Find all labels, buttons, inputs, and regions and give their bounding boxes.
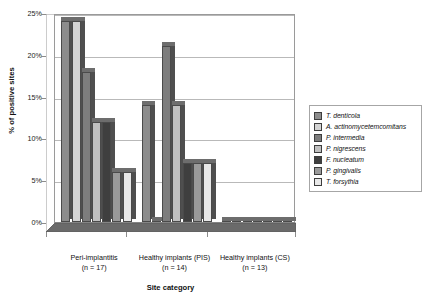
legend-item: F. nucleatum (314, 154, 418, 165)
bar-front (61, 21, 70, 222)
y-axis-tick-label: 15% (28, 94, 42, 102)
x-axis-tick (46, 232, 47, 237)
bar-front (92, 122, 101, 222)
legend-item: P. intermedia (314, 132, 418, 143)
bar-top (172, 101, 185, 105)
legend-label: P. nigrescens (326, 145, 366, 152)
bar-top (162, 42, 175, 46)
legend-label: T. denticola (326, 112, 360, 119)
bar-top (203, 159, 216, 163)
bar (142, 105, 151, 222)
legend-item: P. nigrescens (314, 143, 418, 154)
plot-floor (46, 214, 296, 232)
legend-label: F. nucleatum (326, 156, 364, 163)
y-axis-tick-label: 10% (28, 135, 42, 143)
bar-side (151, 102, 155, 219)
plot-face (54, 14, 295, 223)
bar-group (142, 13, 213, 222)
bar-top (123, 168, 136, 172)
legend-item: T. denticola (314, 110, 418, 121)
bar-chart: % of positive sites 0%5%10%15%20%25% Per… (0, 0, 434, 302)
legend-item: T. forsythia (314, 176, 418, 187)
x-axis-tick (126, 232, 127, 237)
bar-side (132, 169, 136, 219)
legend-swatch (314, 123, 322, 131)
x-axis-tick (207, 232, 208, 237)
bar-group (222, 13, 293, 222)
legend-swatch (314, 167, 322, 175)
y-axis-title: % of positive sites (7, 6, 16, 196)
bar (162, 46, 171, 222)
legend-swatch (314, 145, 322, 153)
bar-top (102, 118, 115, 122)
bar-top (72, 17, 85, 21)
bar (72, 21, 81, 222)
bar-group (61, 13, 132, 222)
x-axis-category-label: Healthy implants (CS)(n = 13) (195, 253, 315, 273)
y-axis-tick-label: 20% (28, 52, 42, 60)
legend-label: T. forsythia (326, 178, 358, 185)
legend-item: A. actinomycetemcomitans (314, 121, 418, 132)
legend-label: A. actinomycetemcomitans (326, 123, 406, 130)
bar-top (142, 101, 155, 105)
bar-front (102, 122, 111, 222)
bar-top (82, 68, 95, 72)
x-axis-category-line: (n = 13) (195, 263, 315, 273)
x-axis-title: Site category (46, 283, 295, 292)
bar (61, 21, 70, 222)
x-axis-category-line: Healthy implants (CS) (195, 253, 315, 263)
bar (102, 122, 111, 222)
bar-side (212, 160, 216, 219)
bar-front (82, 72, 91, 222)
plot-area (46, 14, 295, 231)
legend-swatch (314, 134, 322, 142)
legend-swatch (314, 156, 322, 164)
bar-front (72, 21, 81, 222)
bar (82, 72, 91, 222)
bar-front (172, 105, 181, 222)
legend-item: P. gingivalis (314, 165, 418, 176)
legend-label: P. intermedia (326, 134, 365, 141)
y-axis-tick-label: 25% (28, 10, 42, 18)
bar (92, 122, 101, 222)
legend-label: P. gingivalis (326, 167, 361, 174)
legend-swatch (314, 112, 322, 120)
bar-front (162, 46, 171, 222)
bar (172, 105, 181, 222)
bar-front (142, 105, 151, 222)
x-axis-tick (295, 232, 296, 237)
legend-swatch (314, 178, 322, 186)
chart-legend: T. denticolaA. actinomycetemcomitansP. i… (309, 105, 422, 192)
